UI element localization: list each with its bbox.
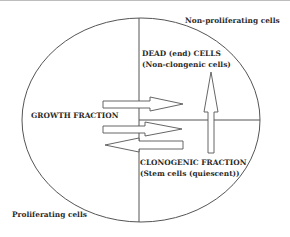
arrow-up-icon (204, 72, 218, 153)
arrow-right-icon (103, 97, 183, 111)
non-proliferating-cells-label: Non-proliferating cells (185, 16, 280, 25)
arrow-right-icon (103, 122, 182, 136)
growth-fraction-label: GROWTH FRACTION (31, 111, 118, 120)
proliferating-cells-label: Proliferating cells (12, 210, 87, 219)
clonogenic-fraction-title: CLONOGENIC FRACTION (140, 158, 246, 167)
arrow-left-icon (105, 138, 183, 152)
dead-cells-title: DEAD (end) CELLS (142, 49, 221, 58)
clonogenic-fraction-subtitle: (Stem cells (quiescent)) (140, 169, 240, 178)
dead-cells-subtitle: (Non-clongenic cells) (142, 60, 231, 69)
